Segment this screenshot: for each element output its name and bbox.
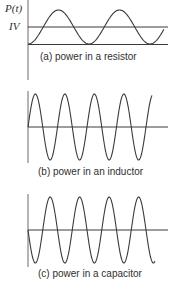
y-axis-label: P(t)	[5, 2, 22, 14]
panel-inductor	[28, 91, 168, 163]
caption-capacitor: (c) power in a capacitor	[38, 268, 142, 279]
caption-resistor: (a) power in a resistor	[40, 51, 137, 62]
iv-label: IV	[9, 20, 19, 32]
power-waveforms-diagram	[0, 0, 177, 297]
caption-inductor: (b) power in an inductor	[38, 166, 143, 177]
panel-resistor	[28, 0, 168, 80]
panel-capacitor	[28, 194, 168, 267]
